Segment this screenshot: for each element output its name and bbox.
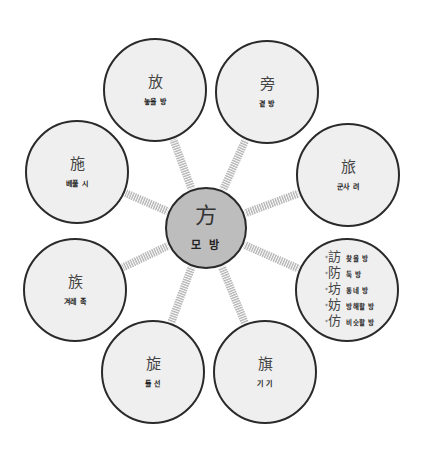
center-node: 方 모 방 bbox=[165, 187, 247, 269]
list-item: * 防 둑 방 bbox=[325, 266, 362, 282]
hanja-radial-diagram: 放 놓을 방 旁 곁 방 旅 군사 려 施 베풀 시 族 겨레 족 旋 돌 선 … bbox=[0, 0, 425, 460]
node-bang-side: 旁 곁 방 bbox=[215, 40, 319, 144]
list-hanja: 防 bbox=[328, 266, 341, 280]
list-item: * 坊 동네 방 bbox=[325, 282, 368, 298]
spoke-connector bbox=[244, 190, 300, 217]
node-reading: 겨레 족 bbox=[64, 296, 86, 306]
list-reading: 동네 방 bbox=[346, 284, 368, 298]
center-hanja: 方 bbox=[195, 204, 217, 228]
list-reading: 찾을 방 bbox=[346, 252, 368, 266]
list-reading: 비슷할 방 bbox=[346, 316, 375, 330]
node-hanja: 旋 bbox=[146, 356, 161, 373]
list-reading: 방해할 방 bbox=[346, 300, 375, 314]
node-hanja: 族 bbox=[68, 274, 83, 291]
node-ryeo-troop: 旅 군사 려 bbox=[296, 123, 400, 227]
node-seon-revolve: 旋 돌 선 bbox=[101, 320, 205, 424]
spoke-connector bbox=[243, 241, 300, 272]
list-hanja: 坊 bbox=[328, 282, 341, 296]
variant-list: * 訪 찾을 방 * 防 둑 방 * 坊 동네 방 * 妨 방해할 방 * 仿 bbox=[325, 250, 375, 330]
list-hanja: 仿 bbox=[328, 314, 341, 328]
list-item: * 妨 방해할 방 bbox=[325, 298, 375, 314]
node-reading: 돌 선 bbox=[145, 378, 161, 388]
list-item: * 仿 비슷할 방 bbox=[325, 314, 375, 330]
spoke-connector bbox=[121, 242, 170, 271]
node-hanja: 旗 bbox=[258, 356, 273, 373]
node-reading: 베풀 시 bbox=[66, 178, 88, 188]
list-reading: 둑 방 bbox=[346, 268, 362, 282]
spoke-connector bbox=[168, 266, 196, 324]
node-bang-variants-list: * 訪 찾을 방 * 防 둑 방 * 坊 동네 방 * 妨 방해할 방 * 仿 bbox=[295, 238, 399, 342]
spoke-connector bbox=[124, 189, 169, 215]
node-si-bestow: 施 베풀 시 bbox=[25, 120, 129, 224]
node-hanja: 旁 bbox=[260, 76, 275, 93]
node-gi-flag: 旗 기 기 bbox=[213, 320, 317, 424]
spoke-connector bbox=[218, 265, 248, 324]
node-jok-clan: 族 겨레 족 bbox=[23, 238, 127, 342]
list-hanja: 訪 bbox=[328, 250, 341, 264]
node-hanja: 旅 bbox=[341, 159, 356, 176]
node-reading: 군사 려 bbox=[337, 181, 359, 191]
node-hanja: 放 bbox=[148, 74, 163, 91]
node-reading: 기 기 bbox=[257, 378, 273, 388]
list-hanja: 妨 bbox=[328, 298, 341, 312]
list-item: * 訪 찾을 방 bbox=[325, 250, 368, 266]
spoke-connector bbox=[220, 139, 249, 192]
spoke-connector bbox=[170, 138, 196, 190]
center-reading: 모 방 bbox=[191, 236, 221, 252]
node-reading: 곁 방 bbox=[259, 98, 275, 108]
node-bang-release: 放 놓을 방 bbox=[103, 38, 207, 142]
node-hanja: 施 bbox=[70, 156, 85, 173]
node-reading: 놓을 방 bbox=[144, 96, 166, 106]
